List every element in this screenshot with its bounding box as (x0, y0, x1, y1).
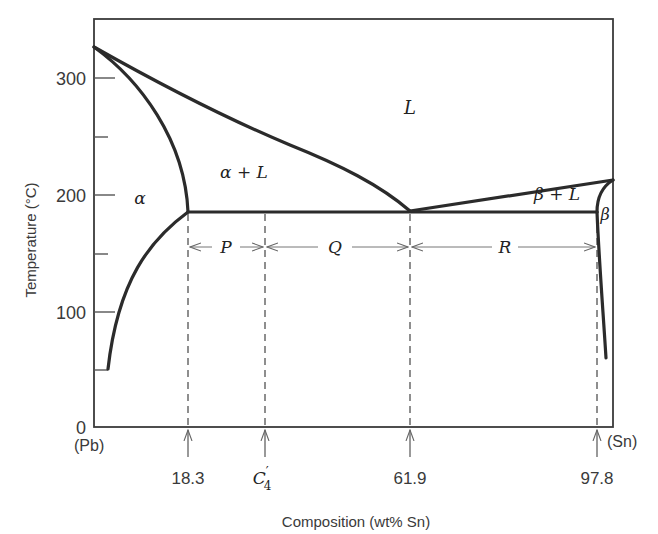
composition-guides (188, 214, 597, 427)
plot-frame (94, 19, 613, 427)
beta-liquidus (410, 180, 613, 211)
pb-endpoint-label: (Pb) (74, 437, 104, 454)
region-alpha: α (134, 188, 146, 208)
x-mark-c4-prime: C′4 (253, 464, 272, 493)
x-mark-61-9: 61.9 (393, 469, 426, 488)
phase-diagram: 300 200 100 0 Temperature (°C) P Q R L α… (0, 0, 658, 534)
beta-solvus (597, 212, 606, 358)
phase-boundaries (94, 47, 613, 369)
region-beta-plus-liquid: β + L (533, 184, 580, 204)
region-beta: β (599, 205, 609, 224)
c4-prime: ′ (266, 464, 269, 479)
sn-endpoint-label: (Sn) (607, 433, 637, 450)
y-tick-100: 100 (56, 303, 86, 323)
alpha-solvus (108, 212, 188, 369)
region-liquid: L (403, 97, 416, 118)
segment-P: P (219, 237, 232, 257)
x-mark-97-8: 97.8 (580, 469, 613, 488)
composition-arrows (188, 430, 597, 457)
region-alpha-plus-liquid: α + L (220, 162, 268, 182)
segment-R: R (498, 237, 512, 257)
c4-subscript: 4 (264, 479, 272, 493)
y-tick-200: 200 (56, 186, 86, 206)
y-tick-0: 0 (76, 418, 86, 438)
x-axis-label: Composition (wt% Sn) (282, 513, 430, 530)
y-tick-300: 300 (56, 69, 86, 89)
alpha-liquidus (94, 47, 410, 211)
y-ticks (94, 78, 115, 370)
segment-Q: Q (328, 237, 342, 257)
x-mark-18-3: 18.3 (171, 469, 204, 488)
y-axis-label: Temperature (°C) (22, 182, 39, 297)
